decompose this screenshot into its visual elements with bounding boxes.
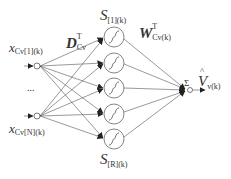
input-label-1: xCv[1](k) [8,40,43,56]
input-hidden-edges [40,38,103,138]
hidden-neuron-3 [104,78,124,98]
output-node [188,88,193,93]
sum-symbol: Σ [184,78,189,88]
hidden-neuron-4 [104,104,124,124]
output-weights-label: WTCv(k) [139,22,171,42]
hidden-neuron-2 [104,53,124,73]
input-node-n [34,113,40,119]
hidden-neuron-5 [104,129,124,149]
output-label: Vv(k) [198,73,221,91]
ellipsis: ... [27,82,35,93]
hidden-neuron-1 [104,27,124,47]
rbf-network-diagram: xCv[1](k) ... xCv[N](k) DTCv S[1](k) S[R… [0,0,231,179]
input-label-n: xCv[N](k) [8,121,45,137]
hidden-output-edges [124,39,185,137]
input-node-1 [34,63,40,69]
input-weights-label: DTCv [65,32,86,52]
top-neuron-label: S[1](k) [100,7,126,25]
bottom-neuron-label: S[R](k) [100,151,128,169]
